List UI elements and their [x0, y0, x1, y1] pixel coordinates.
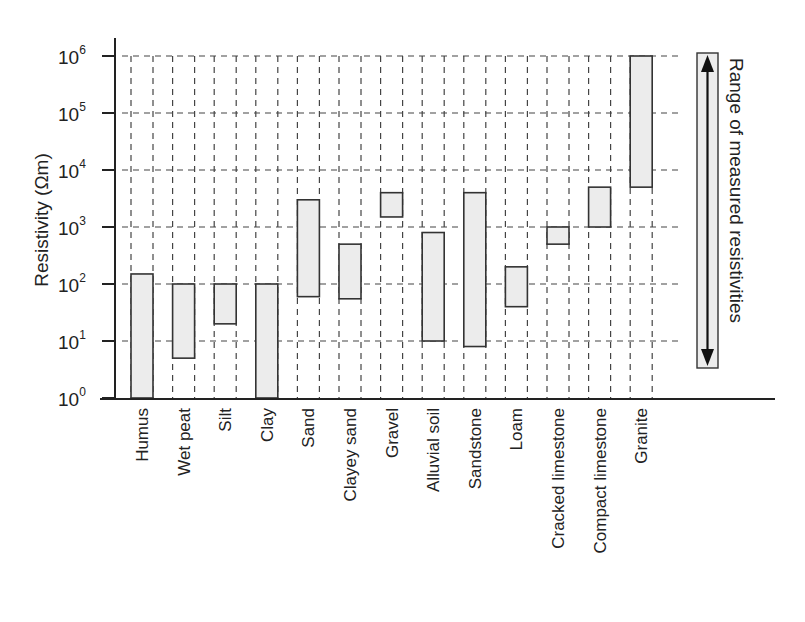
range-bar [630, 56, 652, 187]
range-bar [422, 233, 444, 341]
y-ticks: 100101102103104105106 [58, 43, 115, 410]
range-bar [547, 227, 569, 244]
x-tick-label: Gravel [383, 408, 402, 458]
legend: Range of measured resistivities [697, 53, 747, 368]
x-tick-label: Sand [299, 408, 318, 448]
x-tick-label: Silt [216, 408, 235, 432]
x-tick-label: Wet peat [175, 408, 194, 476]
y-tick-label: 106 [58, 43, 86, 68]
range-bar [297, 200, 319, 297]
x-tick-label: Humus [133, 408, 152, 462]
x-tick-label: Loam [507, 408, 526, 451]
range-bar [505, 267, 527, 307]
y-tick-label: 104 [58, 157, 86, 182]
x-tick-label: Clayey sand [341, 408, 360, 502]
y-axis-label: Resistivity (Ωm) [31, 153, 52, 286]
resistivity-chart: 100101102103104105106 Resistivity (Ωm) H… [0, 0, 805, 622]
x-tick-label: Compact limestone [591, 408, 610, 554]
y-tick-label: 103 [58, 214, 86, 239]
range-bar [173, 284, 195, 358]
x-tick-label: Cracked limestone [549, 408, 568, 549]
x-tick-label: Granite [632, 408, 651, 464]
range-bar [589, 187, 611, 227]
range-bar [464, 193, 486, 347]
range-bar [339, 244, 361, 299]
y-tick-label: 102 [58, 271, 86, 296]
range-bar [256, 284, 278, 398]
x-tick-label: Clay [258, 408, 277, 443]
y-tick-label: 105 [58, 100, 86, 125]
x-tick-labels: HumusWet peatSiltClaySandClayey sandGrav… [133, 408, 651, 554]
range-bar [381, 193, 403, 217]
range-bar [131, 274, 153, 398]
y-tick-label: 100 [58, 385, 86, 410]
y-tick-label: 101 [58, 328, 86, 353]
range-bar [214, 284, 236, 324]
legend-label: Range of measured resistivities [726, 58, 747, 323]
x-tick-label: Alluvial soil [424, 408, 443, 492]
x-tick-label: Sandstone [466, 408, 485, 489]
